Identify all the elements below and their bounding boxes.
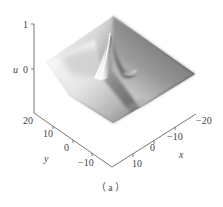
surface — [46, 16, 195, 123]
z-axis-label: u — [13, 64, 18, 75]
x-axis-label: x — [178, 149, 184, 160]
y-tick-label-m10: −10 — [78, 157, 94, 168]
y-tick-label-10: 10 — [43, 128, 53, 139]
y-axis-label: y — [43, 153, 49, 164]
surface-plot: 1 0 u 20 10 0 −10 y 10 0 −10 −20 x — [0, 0, 223, 207]
x-tick-label-0: 0 — [150, 142, 155, 153]
x-tick-label-m10: −10 — [167, 131, 183, 142]
y-tick-label-0: 0 — [64, 142, 69, 153]
x-tick-label-10: 10 — [132, 158, 142, 169]
z-tick-label-0: 0 — [23, 64, 28, 75]
x-tick-label-m20: −20 — [196, 115, 212, 126]
figure-caption: （a） — [0, 179, 223, 194]
y-tick-label-20: 20 — [23, 115, 33, 126]
z-tick-label-1: 1 — [23, 19, 28, 30]
